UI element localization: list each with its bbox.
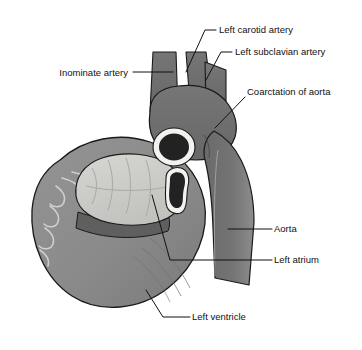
label-innominate-artery: Inominate artery (59, 67, 128, 78)
label-left-subclavian-artery: Left subclavian artery (235, 46, 326, 57)
label-left-carotid-artery: Left carotid artery (219, 24, 293, 35)
descending-aorta (204, 131, 254, 285)
pulmonary-vein-lower (165, 167, 188, 213)
label-left-ventricle: Left ventricle (192, 311, 246, 322)
label-left-atrium: Left atrium (274, 254, 319, 265)
diagram-canvas: Inominate artery Left carotid artery Lef… (0, 0, 362, 350)
heart-coarctation-diagram: Inominate artery Left carotid artery Lef… (0, 0, 362, 350)
pulmonary-vein-upper (153, 128, 195, 166)
label-aorta: Aorta (274, 223, 297, 234)
label-coarctation-of-aorta: Coarctation of aorta (247, 86, 331, 97)
